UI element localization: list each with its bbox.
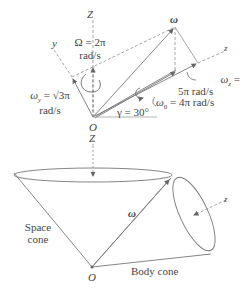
- space-cone-label: Space cone: [18, 222, 58, 245]
- cones-diagram: [14, 146, 226, 269]
- Omega-unit: rad/s: [70, 50, 110, 61]
- Z-axis-label-lower: Z: [89, 133, 95, 144]
- omega-label: ω: [170, 14, 178, 25]
- omega-label-bottom: ω: [128, 208, 136, 219]
- gamma-label: γ = 30°: [117, 107, 149, 118]
- omega-y-label: ωy = √3π rad/s: [20, 90, 80, 116]
- origin-label-bottom: O: [88, 272, 96, 283]
- Omega-value: Ω = 2π: [70, 37, 110, 48]
- y-axis-label: y: [52, 38, 57, 49]
- diagram-canvas: [0, 0, 242, 292]
- omega-0-label: ω0 = 4π rad/s: [156, 97, 214, 111]
- Z-axis-label: Z: [87, 9, 93, 20]
- body-cone-rim: [164, 172, 223, 256]
- omega-vector-bottom: [92, 180, 169, 267]
- z-axis-label-bottom: z: [224, 195, 228, 204]
- z-axis-label: z: [224, 44, 228, 53]
- body-cone-label: Body cone: [131, 266, 178, 277]
- z-axis: [198, 51, 225, 63]
- Omega-label: Ω = 2π rad/s: [70, 37, 110, 61]
